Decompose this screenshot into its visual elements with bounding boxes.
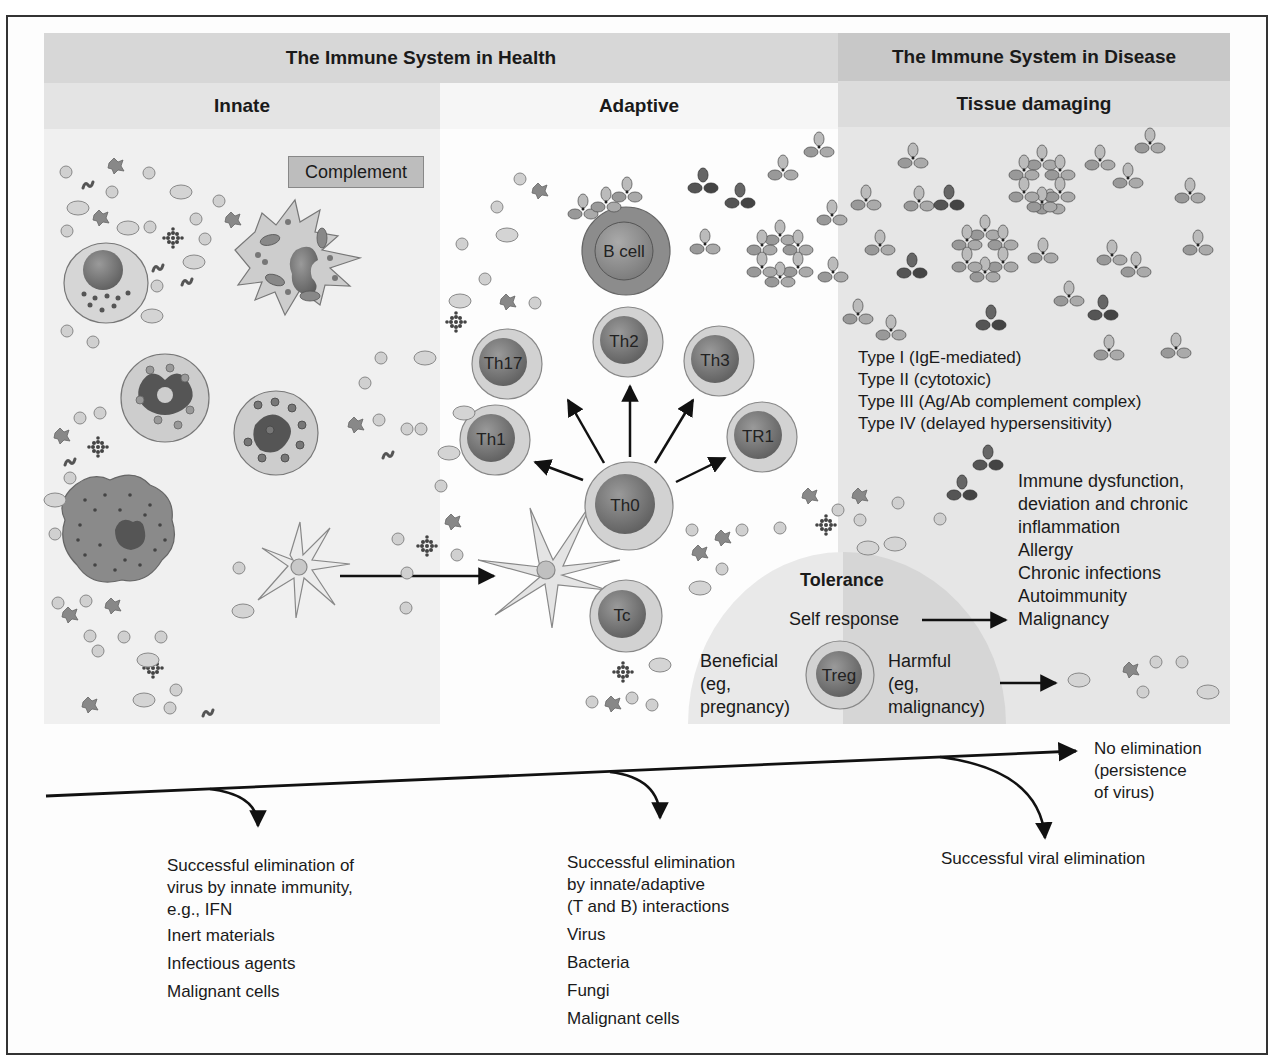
timeline-arrow — [46, 751, 1076, 796]
th3-label: Th3 — [700, 351, 729, 370]
outcome-autoimmunity: Autoimmunity — [1018, 585, 1188, 608]
tr1-cell: TR1 — [727, 402, 797, 472]
eosinophil-starred-cell — [235, 200, 360, 315]
neutrophil-cell — [121, 354, 209, 442]
outcome-line: inflammation — [1018, 516, 1188, 539]
self-response-label: Self response — [789, 608, 899, 631]
tc-label: Tc — [614, 606, 632, 625]
adaptive-elimination-line: by innate/adaptive — [567, 874, 735, 896]
adaptive-elimination-line: (T and B) interactions — [567, 896, 735, 918]
hypersensitivity-type-2: Type II (cytotoxic) — [858, 369, 1141, 391]
harmful-example: malignancy) — [888, 696, 985, 719]
beneficial-example: pregnancy) — [700, 696, 790, 719]
th2-cell: Th2 — [593, 307, 663, 377]
outcome-line: deviation and chronic — [1018, 493, 1188, 516]
innate-target-item: Infectious agents — [167, 953, 354, 975]
outcome-line: Immune dysfunction, — [1018, 470, 1188, 493]
hypersensitivity-type-1: Type I (IgE-mediated) — [858, 347, 1141, 369]
th17-cell: Th17 — [472, 329, 542, 399]
outcome-allergy: Allergy — [1018, 539, 1188, 562]
no-elimination-line: No elimination — [1094, 738, 1202, 760]
mast-cell — [64, 243, 148, 323]
adaptive-elimination-arrow — [610, 772, 660, 818]
th0-cell: Th0 — [585, 462, 673, 550]
treg-cell: Treg — [806, 641, 874, 709]
immature-dendritic-cell — [258, 522, 350, 618]
tr1-label: TR1 — [742, 427, 774, 446]
innate-elimination-line: Successful elimination of — [167, 855, 354, 877]
th3-cell: Th3 — [684, 326, 754, 396]
innate-elimination-text: Successful elimination of virus by innat… — [167, 855, 354, 1003]
harmful-label: Harmful — [888, 650, 985, 673]
th0-label: Th0 — [610, 496, 639, 515]
outcome-chronic-infections: Chronic infections — [1018, 562, 1188, 585]
innate-target-item: Inert materials — [167, 925, 354, 947]
harmful-tolerance: Harmful (eg, malignancy) — [888, 650, 985, 719]
adaptive-target-item: Virus — [567, 924, 735, 946]
innate-elimination-line: virus by innate immunity, — [167, 877, 354, 899]
basophil-cell — [234, 391, 318, 475]
viral-elimination-text: Successful viral elimination — [941, 848, 1145, 870]
innate-elimination-line: e.g., IFN — [167, 899, 354, 921]
no-elimination-line: of virus) — [1094, 782, 1202, 804]
tc-cell: Tc — [590, 580, 662, 652]
hypersensitivity-type-4: Type IV (delayed hypersensitivity) — [858, 413, 1141, 435]
no-elimination-text: No elimination (persistence of virus) — [1094, 738, 1202, 804]
hypersensitivity-list: Type I (IgE-mediated) Type II (cytotoxic… — [858, 347, 1141, 435]
adaptive-target-item: Fungi — [567, 980, 735, 1002]
beneficial-tolerance: Beneficial (eg, pregnancy) — [700, 650, 790, 719]
th17-label: Th17 — [484, 354, 523, 373]
macrophage-cell — [62, 475, 175, 582]
complement-label: Complement — [305, 162, 407, 183]
th2-label: Th2 — [609, 332, 638, 351]
adaptive-elimination-text: Successful elimination by innate/adaptiv… — [567, 852, 735, 1030]
complement-box: Complement — [288, 156, 424, 188]
outcome-malignancy: Malignancy — [1018, 608, 1188, 631]
innate-elimination-arrow — [210, 789, 258, 826]
disease-outcomes-list: Immune dysfunction, deviation and chroni… — [1018, 470, 1188, 631]
tolerance-title: Tolerance — [800, 570, 884, 591]
adaptive-target-item: Bacteria — [567, 952, 735, 974]
b-cell: B cell — [582, 207, 670, 295]
treg-label: Treg — [822, 666, 856, 685]
beneficial-eg: (eg, — [700, 673, 790, 696]
adaptive-target-item: Malignant cells — [567, 1008, 735, 1030]
adaptive-elimination-line: Successful elimination — [567, 852, 735, 874]
hypersensitivity-type-3: Type III (Ag/Ab complement complex) — [858, 391, 1141, 413]
beneficial-label: Beneficial — [700, 650, 790, 673]
viral-elimination-arrow — [940, 757, 1045, 838]
harmful-eg: (eg, — [888, 673, 985, 696]
b-cell-label: B cell — [603, 242, 645, 261]
no-elimination-line: (persistence — [1094, 760, 1202, 782]
innate-target-item: Malignant cells — [167, 981, 354, 1003]
th1-label: Th1 — [476, 430, 505, 449]
